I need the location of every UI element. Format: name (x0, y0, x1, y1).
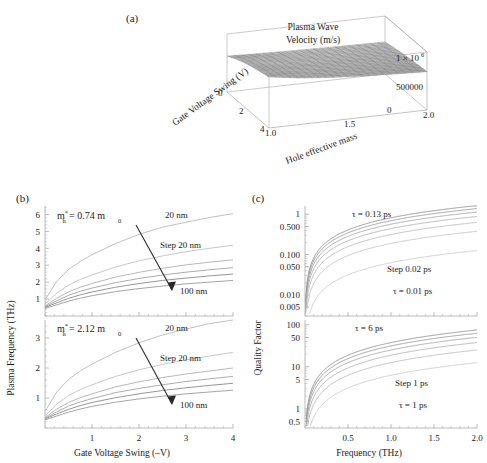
svg-text:3: 3 (36, 260, 41, 270)
panel-b-bot-mass-zero: 0 (118, 330, 121, 337)
svg-text:1: 1 (296, 404, 301, 414)
svg-text:100: 100 (287, 320, 301, 330)
svg-text:2: 2 (36, 363, 41, 373)
svg-text:50: 50 (291, 333, 301, 343)
panel-a-label: (a) (126, 12, 138, 24)
panel-b-bot-mass-star: * (65, 322, 68, 329)
panel-b-bot-label-20nm: 20 nm (165, 323, 188, 333)
svg-text:5: 5 (296, 375, 301, 385)
panel-a-title-line1: Plasma Wave (287, 22, 338, 32)
panel-b-bot-label-100nm: 100 nm (180, 400, 207, 410)
svg-text:0.050: 0.050 (280, 262, 301, 272)
panel-b-bottom-mass-label: m* h = 2.12 m 0 (57, 322, 121, 337)
panel-b-top-mass-label: m* h = 0.74 m 0 (57, 209, 121, 224)
panel-a-ztick-mid: 500000 (396, 82, 424, 92)
panel-c-bot-label-tau-bottom: τ = 1 ps (399, 400, 427, 410)
svg-text:1: 1 (36, 294, 41, 304)
svg-text:3: 3 (36, 333, 41, 343)
panel-b-bot-mass-eq: = 2.12 m (69, 323, 105, 334)
panel-b-top-mass-sub: h (63, 217, 67, 224)
panel-c-bot-label-tau-top: τ = 6 ps (355, 323, 383, 333)
svg-text:1: 1 (90, 433, 95, 443)
panel-a-yaxis-label: Hole effective mass (284, 131, 358, 166)
svg-text:1.0: 1.0 (385, 433, 397, 443)
svg-text:2: 2 (239, 106, 244, 116)
svg-text:2: 2 (137, 433, 142, 443)
panel-b-xaxis-label: Gate Voltage Swing (–V) (74, 448, 170, 459)
panel-b-bot-label-step: Step 20 nm (160, 353, 201, 363)
svg-text:0.500: 0.500 (280, 222, 301, 232)
svg-text:4: 4 (36, 244, 41, 254)
panel-b-top-label-step: Step 20 nm (160, 240, 201, 250)
panel-c-bottom-subplot: 0.51510501000.51.01.52.0 (287, 320, 484, 443)
svg-text:10: 10 (291, 362, 301, 372)
svg-text:0.5: 0.5 (342, 433, 354, 443)
panel-c-bot-label-step: Step 1 ps (395, 378, 429, 388)
panel-a-xaxis-label: Gate Voltage Swing (V) (170, 66, 250, 129)
panel-c-top-label-step: Step 0.02 ps (387, 264, 432, 274)
panel-a-title-line2: Velocity (m/s) (286, 35, 340, 46)
svg-text:1.5: 1.5 (344, 119, 356, 129)
panel-c-top-label-tau-top: τ = 0.13 ps (352, 209, 392, 219)
svg-text:0.5: 0.5 (289, 417, 301, 427)
panel-a-ztick-top: 1 × 10 (396, 53, 420, 63)
panel-b-top-mass-eq: = 0.74 m (69, 210, 105, 221)
panel-b-bottom-arrow (136, 338, 176, 405)
panel-b-yaxis-label: Plasma Frequency (THz) (6, 300, 17, 396)
panel-a-surface-plot: Plasma Wave Velocity (m/s) 0241.01.52.0 … (165, 14, 465, 184)
panel-c-top-label-tau-bottom: τ = 0.01 ps (393, 286, 433, 296)
svg-text:0.100: 0.100 (280, 250, 301, 260)
svg-text:2.0: 2.0 (423, 110, 435, 120)
svg-text:6: 6 (36, 210, 41, 220)
panel-b-bot-mass-sub: h (63, 330, 67, 337)
svg-text:0.005: 0.005 (280, 302, 301, 312)
svg-text:0.010: 0.010 (280, 290, 301, 300)
svg-text:1: 1 (296, 209, 301, 219)
svg-text:1: 1 (36, 393, 41, 403)
svg-text:3: 3 (184, 433, 189, 443)
panel-c-top-subplot: 0.0050.0100.0500.1000.5001 (280, 206, 477, 316)
svg-text:4: 4 (231, 433, 236, 443)
panel-c-yaxis-label: Quality Factor (253, 320, 263, 376)
panel-b-line-plots: Plasma Frequency (THz) 123456 m* h = 0.7… (0, 198, 250, 463)
panel-a-ztick-zero: 0 (387, 105, 392, 115)
panel-a-ztick-top-group: 1 × 10 6 (396, 51, 425, 63)
panel-a-title: Plasma Wave Velocity (m/s) (286, 22, 340, 46)
svg-text:2: 2 (36, 277, 41, 287)
panel-b-top-label-100nm: 100 nm (180, 286, 207, 296)
svg-text:1.0: 1.0 (265, 128, 277, 138)
figure-root: (a) Plasma Wave Velocity (m/s) 0241.01.5… (0, 0, 487, 463)
panel-b-top-mass-star: * (65, 209, 68, 216)
svg-text:2.0: 2.0 (471, 433, 483, 443)
panel-b-top-label-20nm: 20 nm (165, 210, 188, 220)
panel-c-xaxis-label: Frequency (THz) (336, 448, 402, 459)
panel-c-line-plots: Quality Factor 0.0050.0100.0500.1000.500… (247, 198, 487, 463)
panel-b-top-mass-zero: 0 (118, 217, 121, 224)
svg-text:1.5: 1.5 (428, 433, 440, 443)
svg-text:5: 5 (36, 227, 41, 237)
